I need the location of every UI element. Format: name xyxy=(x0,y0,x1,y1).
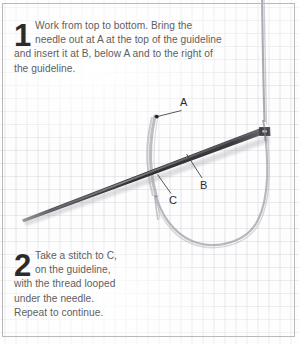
step-1-line-3: and insert it at B, below A and to the r… xyxy=(14,47,222,61)
step-2-line-1: Take a stitch to C, xyxy=(35,249,117,263)
step-2-line-4: under the needle. xyxy=(14,292,117,306)
step-2-numeral: 2 xyxy=(14,250,31,281)
step-1-line-1: Work from top to bottom. Bring the xyxy=(35,19,222,33)
step-2-text: Take a stitch to C, on the guideline, wi… xyxy=(35,249,117,320)
point-label-b: B xyxy=(200,180,207,191)
step-1-line-2: needle out at A at the top of the guidel… xyxy=(35,33,222,47)
worked-stitch-thread xyxy=(147,116,158,196)
step-2-line-3: with the thread looped xyxy=(14,277,117,291)
step-1-line-4: the guideline. xyxy=(14,62,222,76)
leader-line-a xyxy=(155,111,182,119)
step-2-line-2: on the guideline, xyxy=(35,263,117,277)
step-1-text: Work from top to bottom. Bring the needl… xyxy=(35,19,222,76)
stitch-diagram-page: A B C 1 Work from top to bottom. Bring t… xyxy=(0,0,299,344)
point-label-a: A xyxy=(180,97,187,108)
sewing-needle xyxy=(22,127,271,222)
step-2-line-5: Repeat to continue. xyxy=(14,306,117,320)
step-1-numeral: 1 xyxy=(14,20,31,51)
thread-tail xyxy=(262,0,267,124)
point-label-c: C xyxy=(169,195,177,206)
